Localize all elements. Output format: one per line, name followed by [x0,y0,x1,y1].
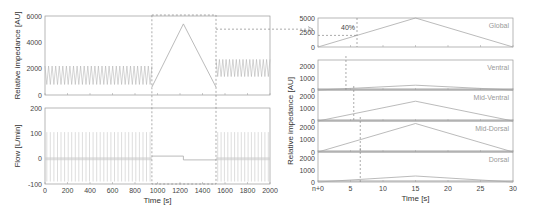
y-axis-label-impedance: Relative impedance [AU] [13,11,22,99]
x-tick-label: 30 [509,185,517,192]
x-tick-label: 25 [477,185,485,192]
region-line-mid-ventral [318,101,513,121]
x-tick-label: 1000 [150,187,166,194]
impedance-line-phase1 [45,66,152,85]
selection-box [152,15,216,184]
x-tick-label: 400 [84,187,96,194]
x-tick-label: 10 [379,185,387,192]
y-tick-label: 1000 [299,105,315,112]
y-tick-label: 2000 [26,65,42,72]
y-tick-label: 1000 [299,75,315,82]
y-tick-label: 2500 [299,29,315,36]
x-tick-label: 1800 [240,187,256,194]
flow-line-phase2 [218,132,269,181]
x-tick-label: 1400 [195,187,211,194]
annotation-40-percent: 40% [341,24,355,31]
x-tick-label: 200 [62,187,74,194]
y-tick-label: -100 [28,181,42,188]
y-tick-label: 0 [38,92,42,99]
y-tick-label: 4000 [26,39,42,46]
y-tick-label: 100 [30,130,42,137]
region-label: Mid-Dorsal [475,125,509,132]
y-tick-label: 2000 [299,124,315,131]
x-tick-label: 1200 [172,187,188,194]
y-tick-label: 0 [38,155,42,162]
region-label: Mid-Ventral [474,94,510,101]
x-axis-label-time-right: Time [s] [401,194,429,203]
region-plot-frame-global [318,18,513,47]
x-tick-label: 5 [349,185,353,192]
y-tick-label: 1000 [299,136,315,143]
y-axis-label-flow: Flow [L/min] [13,124,22,167]
x-tick-label: 800 [129,187,141,194]
region-label: Global [489,22,510,29]
y-tick-label: 6000 [26,13,42,20]
x-axis-label-time: Time [s] [143,196,171,205]
x-tick-label: 15 [412,185,420,192]
x-tick-label: 1600 [217,187,233,194]
impedance-line-inflation [152,24,216,87]
region-label: Ventral [487,64,509,71]
y-tick-label: 0 [311,44,315,51]
region-line-global [318,18,513,47]
y-tick-label: 2000 [299,93,315,100]
y-tick-label: 200 [30,105,42,112]
region-label: Dorsal [489,156,510,163]
chart-canvas: 6000400020000Relative impedance [AU]2001… [0,0,534,213]
x-tick-label: 20 [444,185,452,192]
y-tick-label: 5000 [299,15,315,22]
impedance-line-phase2 [216,59,270,76]
y-tick-label: 1000 [299,167,315,174]
flow-line-phase1 [47,132,150,181]
y-tick-label: 2000 [299,155,315,162]
y-tick-label: 2000 [299,63,315,70]
x-tick-label: 2000 [262,187,278,194]
flow-line-inflation [152,156,216,160]
y-axis-label-right: Relative impedance [AU] [286,77,295,165]
x-tick-label: 0 [43,187,47,194]
region-plot-frame-dorsal [318,152,513,182]
x-tick-label: 600 [107,187,119,194]
x-tick-label: n+0 [312,185,324,192]
